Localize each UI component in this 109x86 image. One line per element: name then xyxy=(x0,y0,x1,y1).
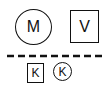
node-label-k-circle: K xyxy=(58,65,66,79)
node-label-k-square: K xyxy=(31,66,39,80)
circle-node-k: K xyxy=(53,62,72,81)
square-node-k: K xyxy=(27,63,44,83)
